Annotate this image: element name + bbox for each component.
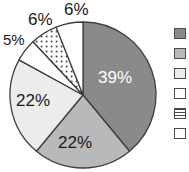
legend-swatch-2 xyxy=(174,48,186,59)
legend-swatch-4 xyxy=(174,88,186,99)
chart-legend xyxy=(174,28,189,139)
legend-item-5[interactable] xyxy=(174,108,189,119)
legend-swatch-3 xyxy=(174,68,186,79)
legend-swatch-6 xyxy=(174,128,186,139)
slice-6-white-label: 6% xyxy=(64,0,89,20)
legend-item-1[interactable] xyxy=(174,28,189,39)
slice-5-label: 5% xyxy=(3,31,25,48)
legend-swatch-5 xyxy=(174,108,186,119)
legend-item-2[interactable] xyxy=(174,48,189,59)
slice-22-left-label: 22% xyxy=(16,91,50,111)
slice-39-label: 39% xyxy=(98,68,132,88)
slice-6-dotted-label: 6% xyxy=(28,10,53,30)
legend-item-4[interactable] xyxy=(174,88,189,99)
legend-swatch-1 xyxy=(174,28,186,39)
legend-item-3[interactable] xyxy=(174,68,189,79)
legend-item-6[interactable] xyxy=(174,128,189,139)
slice-22-bottom-label: 22% xyxy=(58,133,92,153)
pie-chart-figure: 39%22%22%5%6%6% xyxy=(0,0,189,172)
